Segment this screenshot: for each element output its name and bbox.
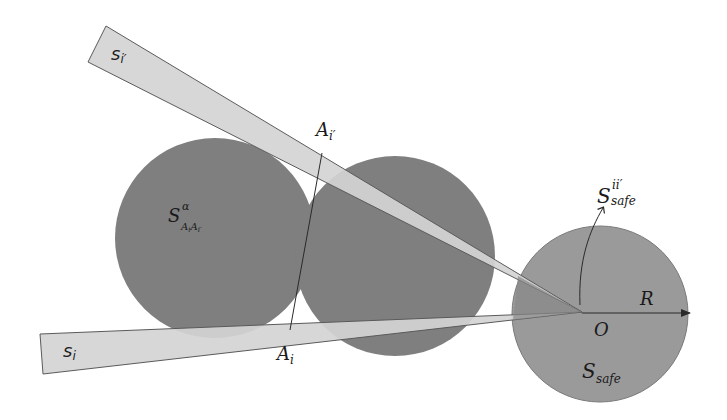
obstacle-circle-left [115,138,315,338]
svg-text:S: S [582,359,596,383]
beam-lower [40,312,582,374]
label-point-lower: Ai [275,343,294,367]
svg-text:S: S [168,205,180,226]
svg-text:safe: safe [611,194,636,208]
svg-text:safe: safe [596,372,621,386]
diagram-canvas: si′ si Ai′ Ai S α AiAi′ S ii′ safe O R S… [0,0,727,420]
label-safe-sector: S ii′ safe [597,178,636,208]
label-radius: R [639,288,654,309]
svg-text:ii′: ii′ [612,178,623,192]
label-point-upper: Ai′ [314,119,336,143]
svg-text:α: α [182,200,190,213]
svg-text:S: S [597,184,611,208]
label-origin: O [594,319,609,340]
